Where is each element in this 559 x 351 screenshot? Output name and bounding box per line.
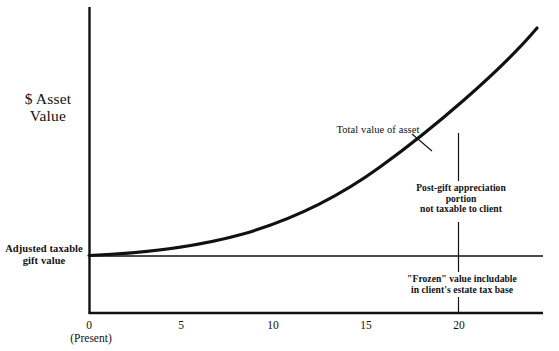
x-tick-label-15: 15 [346,319,386,331]
curve-callout-text: Total value of asset [336,124,419,135]
chart-plot-area [0,0,559,351]
appreciation-line-3: not taxable to client [420,203,502,214]
x-tick-label-0: 0 [69,319,109,331]
y-axis-title: $ AssetValue [10,90,86,125]
frozen-line-2: in client's estate tax base [411,284,513,295]
total-value-of-asset-callout: Total value of asset [318,124,438,136]
total-asset-value-curve [89,28,537,256]
appreciation-line-1: Post-gift appreciation [416,182,506,193]
y-axis-title-line-2: Value [30,107,66,124]
x-axis-present-sublabel: (Present) [56,332,126,344]
x-tick-label-5: 5 [161,319,201,331]
adjusted-taxable-gift-value-label: Adjusted taxablegift value [0,243,88,267]
asset-value-chart-figure: $ AssetValue Adjusted taxablegift value … [0,0,559,351]
appreciation-line-2: portion [446,193,477,204]
baseline-label-line-2: gift value [23,255,66,266]
y-axis-title-line-1: $ Asset [25,90,72,107]
x-tick-label-10: 10 [253,319,293,331]
post-gift-appreciation-annotation: Post-gift appreciationportionnot taxable… [385,183,537,215]
baseline-label-line-1: Adjusted taxable [5,243,83,254]
frozen-line-1: "Frozen" value includable [407,273,517,284]
frozen-value-annotation: "Frozen" value includablein client's est… [379,274,545,295]
x-tick-label-20: 20 [439,319,479,331]
